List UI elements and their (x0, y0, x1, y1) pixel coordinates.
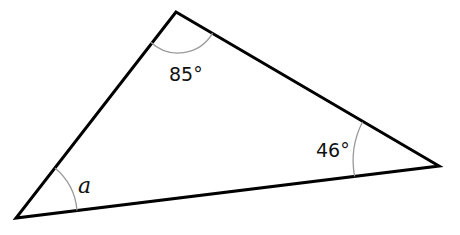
angle-label-right: 46° (316, 139, 350, 161)
angle-arc-right (353, 122, 362, 176)
triangle-diagram: 85° 46° a (0, 0, 460, 235)
angle-label-alpha: a (78, 173, 91, 198)
angle-arc-top (151, 33, 213, 53)
angle-arc-bottom-left (55, 168, 77, 211)
angle-label-top: 85° (169, 63, 203, 85)
